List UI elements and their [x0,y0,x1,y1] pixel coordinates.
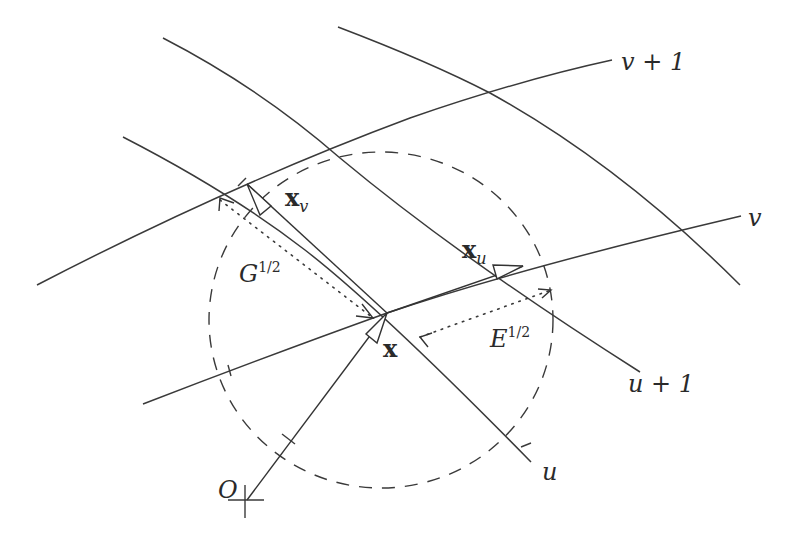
label-e-sup: 1/2 [508,324,531,340]
curve-v-plus-1 [37,60,612,285]
vector-x-line [247,313,387,500]
label-xv-sub: v [299,197,308,216]
label-vector-xv: xv [285,186,308,210]
label-vector-xu: xu [462,238,487,262]
label-vector-x: x [383,337,397,361]
label-v: v [748,206,762,230]
curve-u-plus-1 [163,38,640,372]
label-g-base: G [239,260,258,288]
label-e-base: E [490,325,508,353]
diagram-canvas: v + 1 v u + 1 u O x xu xv G1/2 E1/2 [0,0,786,542]
label-xu-base: x [462,235,476,264]
label-e-half: E1/2 [490,327,530,351]
diagram-svg [0,0,786,542]
label-g-sup: 1/2 [258,259,281,275]
label-g-half: G1/2 [239,262,281,286]
e-arrow-end [420,333,432,347]
tick-u-circle [521,443,531,447]
label-origin: O [218,478,238,502]
e-distance-line [420,290,551,337]
label-u-plus-1: u + 1 [628,372,694,396]
label-u: u [542,460,557,484]
label-xv-base: x [285,183,299,212]
g-distance-line [220,200,373,318]
label-v-plus-1: v + 1 [621,50,685,74]
label-xu-sub: u [476,249,486,268]
curve-u [123,137,531,462]
